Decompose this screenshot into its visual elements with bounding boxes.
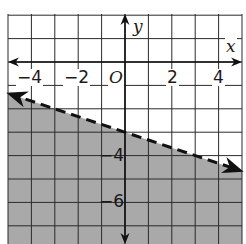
y-tick-label: −4: [98, 147, 125, 164]
y-tick-label: −6: [98, 193, 125, 210]
x-tick-label: 2: [166, 69, 179, 86]
x-tick-label: −2: [63, 69, 90, 86]
y-axis-label: y: [132, 18, 144, 35]
origin-label: O: [108, 69, 124, 86]
x-tick-label: 4: [212, 69, 225, 86]
x-tick-label: −4: [16, 69, 43, 86]
x-axis-label: x: [225, 38, 237, 55]
